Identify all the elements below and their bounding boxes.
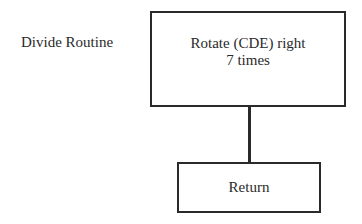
return-box: Return bbox=[177, 162, 321, 213]
routine-label: Divide Routine bbox=[21, 34, 113, 51]
return-label: Return bbox=[229, 179, 270, 196]
rotate-line-2: 7 times bbox=[226, 52, 270, 69]
rotate-line-1: Rotate (CDE) right bbox=[191, 35, 306, 52]
rotate-process-box: Rotate (CDE) right 7 times bbox=[150, 11, 346, 107]
connector-line bbox=[248, 106, 251, 163]
